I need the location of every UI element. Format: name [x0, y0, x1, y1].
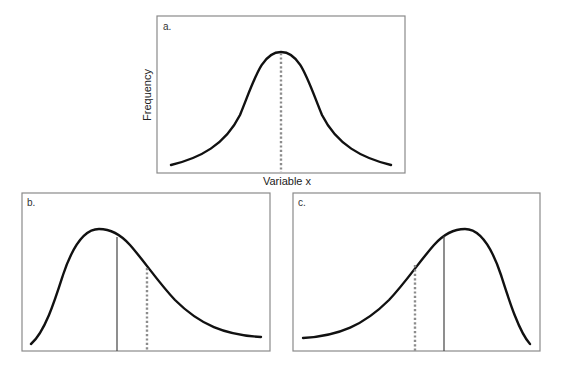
y-axis-label: Frequency	[141, 69, 153, 121]
panel-b: b.	[22, 193, 270, 351]
left-skewed-curve	[303, 229, 530, 344]
panel-a: a. Variable x Frequency	[141, 16, 405, 187]
panel-a-label: a.	[163, 21, 171, 32]
x-axis-label: Variable x	[263, 175, 312, 187]
normal-curve	[171, 52, 391, 165]
distribution-diagram: a. Variable x Frequency b. c.	[0, 0, 563, 368]
panel-c-frame	[293, 193, 540, 351]
panel-b-label: b.	[27, 197, 35, 208]
panel-c-label: c.	[298, 197, 306, 208]
panel-c: c.	[293, 193, 540, 351]
